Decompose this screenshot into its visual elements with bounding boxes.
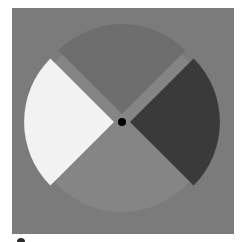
stimulus-figure — [0, 0, 241, 242]
fixation-dot — [118, 118, 126, 126]
stimulus-svg — [0, 0, 241, 242]
cropped-glyph-mark — [17, 238, 25, 242]
